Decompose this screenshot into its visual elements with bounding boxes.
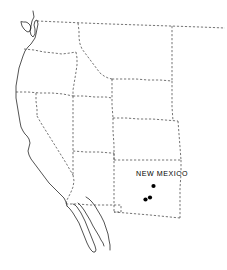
new-mexico-label: NEW MEXICO	[136, 170, 188, 178]
map-canvas: NEW MEXICO	[0, 0, 227, 270]
locality-dot-locality-1	[151, 184, 155, 188]
locality-dot-locality-3	[148, 195, 152, 199]
locality-map-figure: NEW MEXICO	[0, 0, 227, 270]
locality-dot-locality-2	[143, 197, 147, 201]
map-label-group: NEW MEXICO	[136, 170, 188, 178]
